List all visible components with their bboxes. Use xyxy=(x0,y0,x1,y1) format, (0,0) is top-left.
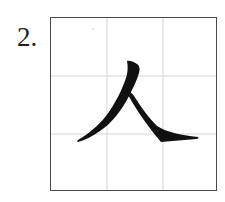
character-ren-glyph xyxy=(77,61,198,142)
stroke-pie xyxy=(77,61,139,142)
speck-mark xyxy=(92,28,93,29)
character-grid xyxy=(0,0,225,202)
